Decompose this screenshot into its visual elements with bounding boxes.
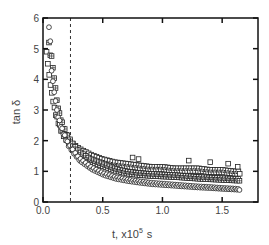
y-tick-label: 4 xyxy=(33,74,39,85)
x-tick-label: 1.5 xyxy=(215,205,229,216)
chart-container: 0.00.51.01.5 0123456 t, x105s tan δ xyxy=(0,0,269,245)
y-tick-label: 5 xyxy=(33,44,39,55)
y-tick-label: 2 xyxy=(33,136,39,147)
y-tick-label: 6 xyxy=(33,13,39,24)
y-tick-label: 1 xyxy=(33,166,39,177)
x-tick-label: 0.5 xyxy=(96,205,110,216)
x-axis-label: t, x105s xyxy=(112,227,153,240)
y-axis-label: tan δ xyxy=(10,100,22,124)
scatter-plot: 0.00.51.01.5 0123456 t, x105s tan δ xyxy=(0,0,269,245)
y-tick-label: 3 xyxy=(33,105,39,116)
y-tick-label: 0 xyxy=(33,197,39,208)
x-tick-label: 1.0 xyxy=(155,205,169,216)
data-markers xyxy=(44,25,242,193)
